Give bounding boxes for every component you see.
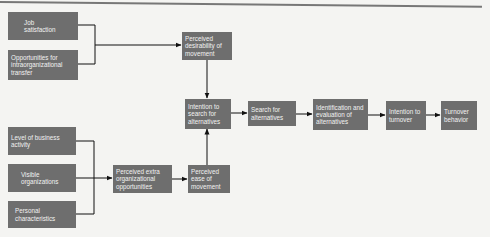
- node-label: Intention to search for alternatives: [188, 103, 228, 125]
- node-label: Identification and evaluation of alterna…: [316, 104, 365, 126]
- node-label: Perceived extra organizational opportuni…: [116, 168, 169, 190]
- top-bracket: [78, 25, 95, 64]
- node-label: Personal characteristics: [15, 207, 69, 221]
- node-level-business: Level of business activity: [8, 127, 76, 155]
- node-intention-search: Intention to search for alternatives: [185, 99, 231, 129]
- node-label: Job satisfaction: [24, 19, 62, 33]
- node-label: Turnover behavior: [444, 108, 474, 122]
- node-opportunities-transfer: Opportunities for intraorganizational tr…: [8, 50, 78, 80]
- node-label: Perceived desirability of movement: [185, 35, 229, 57]
- node-intention-turnover: Intention to turnover: [386, 101, 426, 130]
- node-search-alternatives: Search for alternatives: [248, 101, 296, 126]
- node-identification-evaluation: Identification and evaluation of alterna…: [313, 99, 368, 130]
- node-perceived-ease: Perceived ease of movement: [188, 165, 230, 193]
- node-perceived-desirability: Perceived desirability of movement: [182, 32, 232, 60]
- node-label: Intention to turnover: [389, 108, 423, 122]
- node-label: Level of business activity: [11, 134, 73, 148]
- node-perceived-extra: Perceived extra organizational opportuni…: [113, 165, 172, 193]
- node-label: Visible organizations: [21, 171, 63, 185]
- node-label: Search for alternatives: [251, 106, 293, 120]
- node-label: Opportunities for intraorganizational tr…: [11, 54, 75, 76]
- node-job-satisfaction: Job satisfaction: [8, 12, 78, 40]
- node-label: Perceived ease of movement: [191, 168, 227, 190]
- node-personal-characteristics: Personal characteristics: [8, 201, 76, 228]
- node-visible-organizations: Visible organizations: [8, 164, 76, 192]
- node-turnover-behavior: Turnover behavior: [441, 101, 477, 130]
